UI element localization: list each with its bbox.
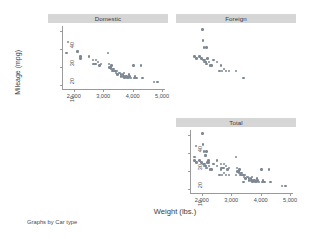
y-tick-label: 40 (69, 38, 75, 52)
y-axis-line (190, 130, 191, 193)
data-point (260, 168, 263, 171)
panel-title-domestic: Domestic (48, 14, 168, 23)
y-tick (188, 153, 191, 154)
x-tick-label: 3,000 (224, 197, 238, 203)
y-tick (60, 31, 63, 32)
data-point (220, 163, 223, 166)
data-point (153, 81, 156, 84)
data-point (228, 174, 231, 177)
data-point (268, 168, 271, 171)
x-tick (202, 193, 203, 196)
data-point (228, 167, 231, 170)
data-point (79, 57, 82, 60)
data-point (210, 168, 213, 171)
data-point (206, 57, 209, 60)
data-point (140, 64, 143, 67)
data-point (94, 63, 97, 66)
x-tick-label: 5,000 (283, 197, 297, 203)
data-point (193, 156, 196, 159)
x-tick (74, 89, 75, 92)
panel-title-foreign: Foreign (176, 14, 296, 23)
data-point (205, 150, 208, 153)
data-point (202, 143, 205, 146)
x-tick-label: 3,000 (96, 93, 110, 99)
data-point (258, 181, 261, 184)
x-tick (103, 89, 104, 92)
data-point (205, 167, 208, 170)
x-tick-label: 4,000 (254, 197, 268, 203)
data-point (132, 64, 135, 67)
data-point (110, 64, 113, 67)
data-point (216, 159, 219, 162)
data-point (284, 185, 287, 188)
x-tick-label: 4,000 (126, 93, 140, 99)
data-point (107, 52, 110, 55)
x-axis-title: Weight (lbs.) (154, 207, 196, 216)
x-axis-line (190, 193, 293, 194)
data-point (263, 181, 266, 184)
data-point (242, 77, 245, 80)
y-tick (60, 85, 63, 86)
plotarea-total: 102030402,0003,0004,0005,000 (176, 127, 296, 205)
data-point (281, 185, 284, 188)
data-point (130, 77, 133, 80)
y-tick (60, 49, 63, 50)
data-point (92, 59, 95, 62)
panel-foreign: Foreign (176, 14, 296, 110)
data-point (208, 61, 211, 64)
data-point (202, 39, 205, 42)
data-point (204, 155, 207, 158)
plotarea-domestic: 102030402,0003,0004,0005,000 (48, 23, 168, 101)
data-point (76, 51, 79, 54)
data-point (212, 163, 215, 166)
data-point (235, 174, 238, 177)
x-tick-label: 2,000 (195, 197, 209, 203)
y-tick (188, 135, 191, 136)
data-point (205, 63, 208, 66)
data-point (205, 46, 208, 49)
data-point (221, 70, 224, 73)
data-point (228, 70, 231, 73)
x-tick (261, 193, 262, 196)
data-point (100, 63, 103, 66)
data-point (216, 165, 219, 168)
x-tick-label: 2,000 (67, 93, 81, 99)
plotarea-foreign (176, 23, 296, 101)
x-tick (133, 89, 134, 92)
data-point (201, 28, 204, 31)
x-tick (162, 89, 163, 92)
data-point (156, 81, 159, 84)
data-point (269, 181, 272, 184)
y-axis-line (62, 26, 63, 89)
panel-title-total: Total (176, 118, 296, 127)
y-tick-label: 20 (197, 178, 203, 192)
x-tick (231, 193, 232, 196)
y-tick (188, 171, 191, 172)
data-point (88, 55, 91, 58)
graph-note: Graphs by Car type (27, 219, 77, 225)
y-axis-title: Mileage (mpg) (14, 50, 21, 95)
data-point (216, 61, 219, 64)
data-point (235, 156, 238, 159)
y-tick (188, 189, 191, 190)
panel-domestic: Domestic 102030402,0003,0004,0005,000 (48, 14, 168, 110)
y-tick (60, 67, 63, 68)
data-point (141, 77, 144, 80)
data-point (123, 72, 126, 75)
data-point (135, 77, 138, 80)
y-tick-label: 20 (69, 74, 75, 88)
panel-total: Total 102030402,0003,0004,0005,000 (176, 118, 296, 214)
data-point (212, 59, 215, 62)
data-point (208, 165, 211, 168)
data-point (65, 52, 68, 55)
data-point (235, 70, 238, 73)
data-point (242, 181, 245, 184)
data-point (222, 167, 225, 170)
x-tick (290, 193, 291, 196)
data-point (201, 132, 204, 135)
scatter-plot-figure: Domestic 102030402,0003,0004,0005,000 Fo… (0, 0, 316, 239)
data-point (238, 168, 241, 171)
data-point (206, 161, 209, 164)
data-point (221, 174, 224, 177)
data-point (220, 64, 223, 67)
